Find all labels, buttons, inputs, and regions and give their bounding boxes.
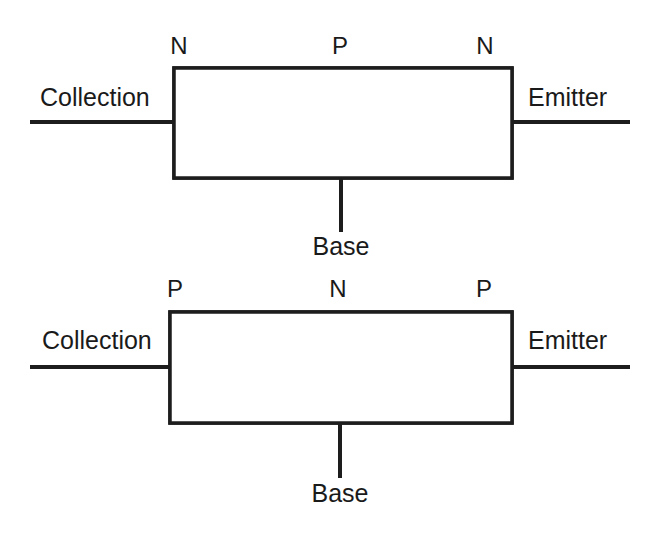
pnp-collection-label: Collection — [42, 326, 152, 354]
npn-zone-label-right: N — [476, 32, 493, 59]
npn-zone-label-left: N — [170, 32, 187, 59]
npn-body-box-outline — [174, 68, 512, 178]
npn-emitter-label: Emitter — [528, 83, 607, 111]
pnp-diagram: P N P Collection Emitter Base — [30, 275, 630, 507]
pnp-zone-label-left: P — [167, 275, 183, 302]
npn-base-label: Base — [313, 232, 370, 260]
npn-collection-label: Collection — [40, 83, 150, 111]
pnp-base-label: Base — [312, 479, 369, 507]
pnp-zone-label-right: P — [476, 275, 492, 302]
npn-diagram: N P N Collection Emitter — [30, 32, 630, 260]
npn-zone-label-middle: P — [332, 32, 348, 59]
diagram-root: N P N Collection Emitter — [0, 0, 657, 534]
pnp-body-box-outline — [170, 312, 512, 423]
pnp-zone-label-middle: N — [329, 275, 346, 302]
transistor-diagram-canvas: N P N Collection Emitter — [0, 0, 657, 534]
pnp-emitter-label: Emitter — [528, 326, 607, 354]
